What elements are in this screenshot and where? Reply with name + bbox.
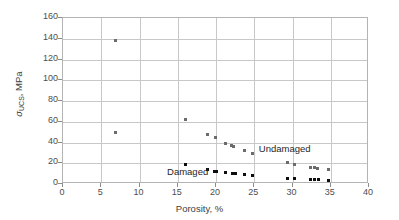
y-tick-label: 40 <box>28 137 58 146</box>
gridline-horizontal <box>63 60 367 61</box>
gridline-horizontal <box>63 101 367 102</box>
plot-area: UndamagedDamaged <box>62 17 368 183</box>
data-point-damaged <box>293 177 296 180</box>
y-axis-symbol: σ <box>13 111 24 117</box>
x-tick-label: 35 <box>318 188 342 197</box>
x-axis-title: Porosity, % <box>0 203 399 214</box>
gridline-horizontal <box>63 39 367 40</box>
y-tick-label: 160 <box>28 12 58 21</box>
data-point-undamaged <box>293 163 296 166</box>
data-point-undamaged <box>114 131 117 134</box>
gridline-horizontal <box>63 80 367 81</box>
chart-figure: σUCS, MPa 020406080100120140160 05101520… <box>0 0 399 220</box>
x-tick-label: 5 <box>88 188 112 197</box>
data-point-undamaged <box>214 136 217 139</box>
x-tick-label: 40 <box>356 188 380 197</box>
data-point-undamaged <box>243 149 246 152</box>
y-tick-label: 60 <box>28 116 58 125</box>
undamaged-label: Undamaged <box>259 143 311 154</box>
gridline-horizontal <box>63 122 367 123</box>
gridline-vertical <box>293 18 294 182</box>
gridline-vertical <box>216 18 217 182</box>
data-point-damaged <box>309 178 312 181</box>
gridline-vertical <box>101 18 102 182</box>
data-point-damaged <box>243 173 246 176</box>
y-tick-label: 20 <box>28 157 58 166</box>
data-point-damaged <box>224 171 227 174</box>
data-point-damaged <box>251 174 254 177</box>
gridline-vertical <box>178 18 179 182</box>
data-point-undamaged <box>232 145 235 148</box>
data-point-damaged <box>215 170 218 173</box>
gridline-horizontal <box>63 143 367 144</box>
gridline-vertical <box>140 18 141 182</box>
y-axis-subscript: UCS <box>18 96 25 111</box>
data-point-damaged <box>313 178 316 181</box>
damaged-label: Damaged <box>167 166 208 177</box>
x-tick-label: 15 <box>165 188 189 197</box>
gridline-vertical <box>331 18 332 182</box>
data-point-damaged <box>327 179 330 182</box>
x-tick-label: 10 <box>127 188 151 197</box>
y-tick-label: 0 <box>28 178 58 187</box>
y-tick-label: 140 <box>28 33 58 42</box>
data-point-undamaged <box>251 152 254 155</box>
x-tick-label: 0 <box>50 188 74 197</box>
data-point-damaged <box>317 178 320 181</box>
gridline-horizontal <box>63 163 367 164</box>
x-tick-label: 30 <box>280 188 304 197</box>
data-point-undamaged <box>327 168 330 171</box>
data-point-undamaged <box>286 161 289 164</box>
data-point-undamaged <box>316 167 319 170</box>
data-point-undamaged <box>114 39 117 42</box>
data-point-undamaged <box>184 118 187 121</box>
y-axis-title: σUCS, MPa <box>13 39 25 149</box>
y-tick-label: 120 <box>28 54 58 63</box>
y-tick-label: 100 <box>28 74 58 83</box>
gridline-vertical <box>254 18 255 182</box>
x-tick-label: 25 <box>241 188 265 197</box>
data-point-undamaged <box>206 133 209 136</box>
data-point-damaged <box>234 172 237 175</box>
y-axis-unit: , MPa <box>13 71 24 96</box>
x-tick-label: 20 <box>203 188 227 197</box>
data-point-damaged <box>286 177 289 180</box>
data-point-undamaged <box>224 142 227 145</box>
y-tick-label: 80 <box>28 95 58 104</box>
data-point-undamaged <box>309 166 312 169</box>
